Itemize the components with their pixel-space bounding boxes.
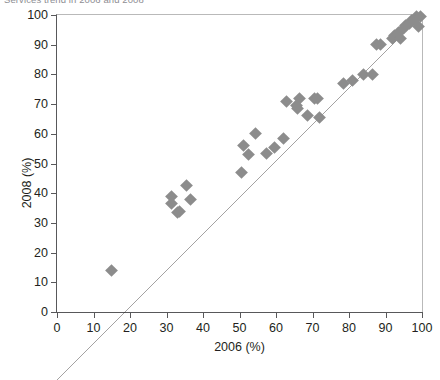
x-axis-tick bbox=[130, 312, 131, 318]
y-axis-tick-label: 20 bbox=[34, 246, 48, 260]
x-axis-tick bbox=[240, 312, 241, 318]
x-axis-tick-label: 0 bbox=[54, 321, 61, 335]
x-axis-tick bbox=[386, 312, 387, 318]
y-axis-tick-label: 10 bbox=[34, 275, 48, 289]
x-axis-tick-label: 70 bbox=[306, 321, 320, 335]
x-axis-tick bbox=[203, 312, 204, 318]
y-axis-tick bbox=[51, 134, 57, 135]
y-axis-tick-label: 40 bbox=[34, 186, 48, 200]
y-axis-label: 2008 (%) bbox=[20, 157, 34, 208]
x-axis-tick-label: 80 bbox=[342, 321, 356, 335]
y-axis-tick bbox=[51, 74, 57, 75]
y-axis-tick bbox=[51, 45, 57, 46]
x-axis-tick bbox=[276, 312, 277, 318]
x-axis-tick-label: 10 bbox=[87, 321, 101, 335]
x-axis-tick-label: 30 bbox=[160, 321, 174, 335]
x-axis-tick-label: 50 bbox=[233, 321, 247, 335]
y-axis-tick bbox=[51, 223, 57, 224]
y-axis-tick bbox=[51, 15, 57, 16]
x-axis-tick-label: 20 bbox=[123, 321, 137, 335]
y-axis-tick-label: 80 bbox=[34, 67, 48, 81]
y-axis-tick-label: 70 bbox=[34, 97, 48, 111]
y-axis-tick bbox=[51, 164, 57, 165]
y-axis-tick bbox=[51, 253, 57, 254]
y-axis-tick-label: 90 bbox=[34, 38, 48, 52]
x-axis-tick-label: 40 bbox=[196, 321, 210, 335]
x-axis-tick bbox=[349, 312, 350, 318]
x-axis-tick bbox=[57, 312, 58, 318]
y-axis-tick-label: 0 bbox=[41, 305, 48, 319]
x-axis-tick-label: 100 bbox=[412, 321, 433, 335]
x-axis-tick bbox=[167, 312, 168, 318]
y-axis-tick-label: 50 bbox=[34, 157, 48, 171]
y-axis-tick bbox=[51, 282, 57, 283]
y-axis-tick-label: 100 bbox=[27, 8, 48, 22]
chart-title-clipped: Services trend in 2006 and 2008 bbox=[4, 0, 434, 5]
x-axis-label: 2006 (%) bbox=[56, 340, 423, 354]
x-axis-tick bbox=[422, 312, 423, 318]
y-axis-tick-label: 30 bbox=[34, 216, 48, 230]
x-axis-tick bbox=[313, 312, 314, 318]
x-axis-tick-label: 90 bbox=[379, 321, 393, 335]
y-axis-tick bbox=[51, 104, 57, 105]
y-axis-tick-label: 60 bbox=[34, 127, 48, 141]
x-axis-tick-label: 60 bbox=[269, 321, 283, 335]
plot-area: 0102030405060708090100010203040506070809… bbox=[56, 14, 423, 313]
plot-inner bbox=[57, 15, 422, 312]
y-axis-tick bbox=[51, 193, 57, 194]
x-axis-tick bbox=[94, 312, 95, 318]
